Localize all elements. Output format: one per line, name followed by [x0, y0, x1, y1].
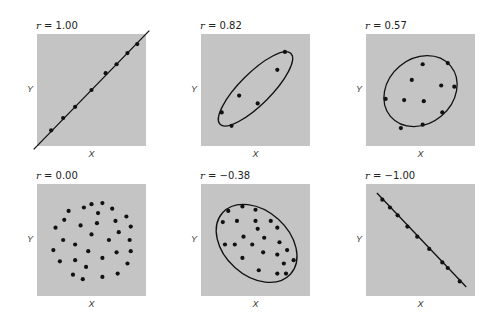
data-point: [116, 272, 120, 276]
r-value: −0.38: [220, 170, 251, 181]
data-point: [380, 198, 384, 202]
data-point: [405, 224, 409, 228]
data-point: [277, 240, 281, 244]
data-point: [275, 272, 279, 276]
panel-title: r = 0.82: [200, 20, 242, 31]
data-point: [58, 259, 62, 263]
data-point: [256, 101, 260, 105]
equals-sign: =: [370, 20, 385, 31]
plot-area: [366, 34, 475, 146]
plot-area: [201, 184, 310, 296]
equals-sign: =: [205, 170, 220, 181]
data-point: [415, 235, 419, 239]
data-point: [275, 68, 279, 72]
data-point: [253, 219, 257, 223]
x-axis-label: X: [89, 299, 95, 309]
data-point: [95, 221, 99, 225]
data-point: [240, 256, 244, 260]
data-point: [51, 248, 55, 252]
y-axis-label: Y: [356, 84, 362, 94]
data-point: [221, 220, 225, 224]
data-point: [388, 205, 392, 209]
data-point: [89, 232, 93, 236]
data-point: [67, 209, 71, 213]
r-value: −1.00: [385, 170, 416, 181]
r-value: 0.82: [220, 20, 242, 31]
data-point: [73, 242, 77, 246]
data-point: [79, 223, 83, 227]
data-point: [62, 218, 66, 222]
panel-title: r = 0.00: [36, 170, 78, 181]
data-point: [73, 258, 77, 262]
data-point: [262, 236, 266, 240]
data-point: [107, 238, 111, 242]
data-point: [81, 277, 85, 281]
data-point: [125, 261, 129, 265]
equals-sign: =: [370, 170, 385, 181]
plot-background: [201, 34, 310, 146]
plot-background: [366, 34, 475, 146]
data-point: [421, 62, 425, 66]
data-point: [235, 219, 239, 223]
data-point: [253, 208, 257, 212]
data-point: [410, 78, 414, 82]
data-point: [89, 202, 93, 206]
data-point: [269, 219, 273, 223]
r-value: 0.00: [56, 170, 78, 181]
data-point: [53, 226, 57, 230]
r-value: 0.57: [385, 20, 407, 31]
data-point: [229, 124, 233, 128]
data-point: [283, 50, 287, 54]
y-axis-label: Y: [27, 234, 33, 244]
data-point: [440, 110, 444, 114]
data-point: [284, 272, 288, 276]
data-point: [220, 110, 224, 114]
data-point: [71, 273, 75, 277]
x-axis-label: X: [253, 149, 259, 159]
data-point: [110, 207, 114, 211]
data-point: [396, 213, 400, 217]
data-point: [100, 275, 104, 279]
data-point: [124, 214, 128, 218]
data-point: [282, 261, 286, 265]
data-point: [100, 201, 104, 205]
data-point: [128, 238, 132, 242]
data-point: [422, 99, 426, 103]
data-point: [82, 205, 86, 209]
x-axis-label: X: [418, 149, 424, 159]
panel-title: r = 0.57: [365, 20, 407, 31]
data-point: [237, 94, 241, 98]
data-point: [233, 242, 237, 246]
data-point: [114, 250, 118, 254]
data-point: [223, 242, 227, 246]
data-point: [113, 219, 117, 223]
equals-sign: =: [41, 170, 56, 181]
data-point: [275, 226, 279, 230]
data-point: [427, 247, 431, 251]
data-point: [129, 249, 133, 253]
data-point: [226, 209, 230, 213]
data-point: [452, 85, 456, 89]
data-point: [240, 204, 244, 208]
data-point: [100, 256, 104, 260]
data-point: [250, 242, 254, 246]
data-point: [256, 227, 260, 231]
x-axis-label: X: [418, 299, 424, 309]
equals-sign: =: [205, 20, 220, 31]
data-point: [402, 98, 406, 102]
x-axis-label: X: [253, 299, 259, 309]
data-point: [440, 260, 444, 264]
data-point: [292, 258, 296, 262]
data-point: [117, 230, 121, 234]
data-point: [61, 238, 65, 242]
scatter-panel-6: r = −1.00 Y X: [0, 0, 160, 160]
data-point: [129, 224, 133, 228]
panel-title: r = −0.38: [200, 170, 250, 181]
plot-area: [201, 34, 310, 146]
y-axis-label: Y: [191, 84, 197, 94]
data-point: [439, 83, 443, 87]
y-axis-label: Y: [356, 234, 362, 244]
data-point: [446, 61, 450, 65]
data-point: [458, 279, 462, 283]
data-point: [261, 250, 265, 254]
